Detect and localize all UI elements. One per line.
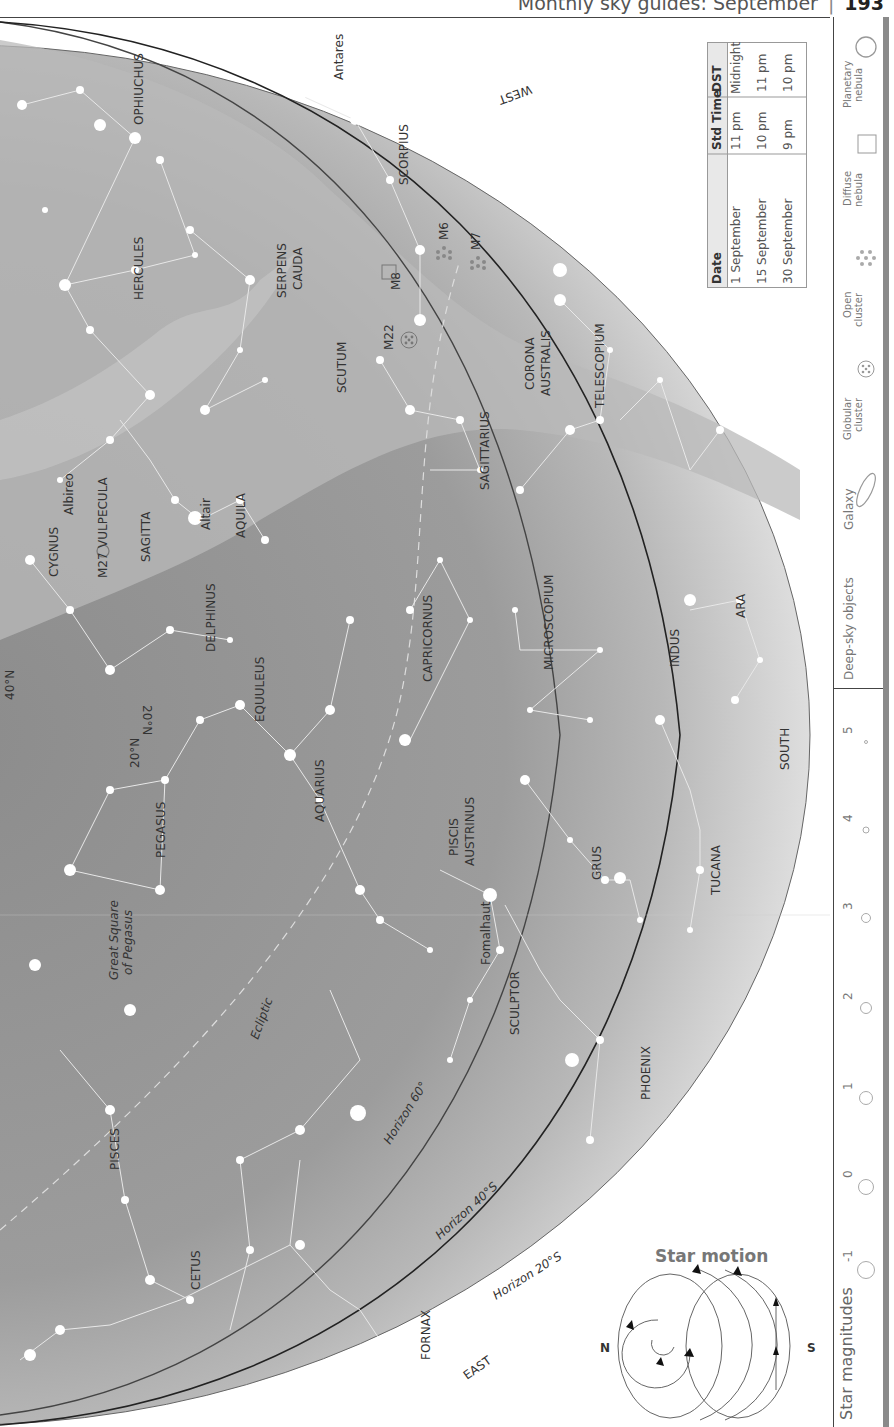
label-cauda: CAUDA (291, 247, 305, 290)
label-aquila: AQUILA (234, 492, 248, 538)
table-header-date: Date (710, 252, 724, 284)
legend-mag-1: 1 (842, 1082, 855, 1090)
diffuse-nebula-legend-icon (858, 135, 876, 153)
label-20n-b: 20°N (128, 738, 142, 768)
legend-mag-minus1: -1 (842, 1250, 855, 1262)
legend-mag-4: 4 (842, 814, 855, 822)
label-cygnus: CYGNUS (47, 527, 61, 577)
label-pisces: PISCES (108, 1128, 122, 1170)
label-altair: Altair (199, 498, 213, 530)
page-title: Monthly sky guides: September (518, 0, 818, 14)
label-indus: INDUS (668, 629, 682, 667)
table-header-dst: DST (710, 65, 724, 92)
legend-open-2: cluster (853, 293, 864, 327)
label-m22: M22 (382, 324, 396, 350)
label-ara: ARA (734, 593, 748, 618)
legend-galaxy: Galaxy (843, 488, 856, 530)
magnitude-5-icon (865, 741, 868, 744)
magnitude-minus1-icon (858, 1262, 875, 1279)
label-corona: CORONA (523, 336, 537, 390)
label-aquarius: AQUARIUS (313, 759, 327, 822)
legend-diffuse-1: Diffuse (842, 171, 853, 206)
sky-map: OPHIUCHUS HERCULES SERPENS CAUDA SCORPIU… (0, 18, 830, 1427)
planetary-nebula-legend-icon (856, 37, 876, 57)
star-motion-title: Star motion (655, 1246, 768, 1266)
legend-planetary-2: nebula (853, 68, 864, 102)
label-40n: 40°N (3, 670, 17, 700)
legend-magnitudes-title: Star magnitudes (840, 1287, 853, 1420)
label-ophiuchus: OPHIUCHUS (132, 53, 146, 125)
star-motion-diagram (618, 1270, 790, 1420)
label-20n-a: 20°N (140, 705, 154, 735)
label-scorpius: SCORPIUS (397, 124, 411, 185)
label-microscopium: MICROSCOPIUM (542, 575, 556, 670)
label-sculptor: SCULPTOR (508, 971, 522, 1035)
globular-cluster-legend-icon (858, 361, 874, 377)
legend-mag-0: 0 (842, 1170, 855, 1178)
legend-diffuse-2: nebula (853, 173, 864, 207)
legend-planetary-1: Planetary (842, 60, 853, 108)
label-piscis: PISCIS (447, 818, 461, 856)
label-pegasus: PEGASUS (154, 802, 168, 858)
label-fomalhaut: Fomalhaut (479, 901, 493, 965)
label-fornax: FORNAX (419, 1310, 433, 1360)
table-cell-dst-2: 11 pm (755, 54, 769, 92)
label-tucana: TUCANA (709, 844, 723, 896)
table-header-std-time: Std Time (710, 90, 724, 150)
label-m27: M27 (96, 552, 110, 578)
label-sagittarius: SAGITTARIUS (478, 411, 492, 490)
table-cell-date-2: 15 September (755, 199, 769, 284)
table-cell-std-3: 9 pm (781, 119, 795, 150)
label-hercules: HERCULES (132, 237, 146, 300)
label-sagitta: SAGITTA (139, 511, 153, 562)
table-cell-date-3: 30 September (781, 199, 795, 284)
table-cell-dst-3: 10 pm (781, 54, 795, 92)
observation-time-table: Date Std Time DST 1 September 11 pm Midn… (707, 42, 807, 288)
label-m8: M8 (389, 272, 403, 290)
open-cluster-legend-icon (856, 250, 876, 266)
label-great-square-2: of Pegasus (121, 910, 135, 975)
table-cell-std-1: 11 pm (729, 112, 743, 150)
star-motion-north: N (600, 1341, 610, 1355)
label-west: WEST (496, 82, 534, 107)
label-m6: M6 (437, 222, 451, 240)
legend-open-1: Open (842, 291, 853, 318)
legend-divider (833, 688, 883, 689)
table-cell-dst-1: Midnight (729, 42, 743, 94)
magnitude-2-icon (861, 1003, 872, 1014)
label-albireo: Albireo (62, 473, 76, 515)
legend-globular-1: Globular (842, 398, 853, 440)
label-equuleus: EQUULEUS (253, 657, 267, 722)
label-scutum: SCUTUM (335, 342, 349, 393)
label-australis: AUSTRALIS (539, 330, 553, 396)
legend-mag-5: 5 (842, 726, 855, 734)
legend-deep-sky-title: Deep-sky objects (843, 577, 856, 680)
label-great-square-1: Great Square (107, 900, 121, 980)
label-east: EAST (461, 1353, 495, 1382)
label-vulpecula: VULPECULA (96, 476, 110, 548)
star-motion-arrows (626, 1264, 779, 1366)
magnitude-4-icon (863, 827, 869, 833)
header-separator: | (828, 0, 834, 14)
label-capricornus: CAPRICORNUS (421, 595, 435, 682)
label-m7: M7 (469, 232, 483, 250)
sky-chart-svg: OPHIUCHUS HERCULES SERPENS CAUDA SCORPIU… (0, 18, 830, 1427)
galaxy-legend-icon (853, 471, 879, 509)
legend-mag-3: 3 (842, 902, 855, 910)
page-header: Monthly sky guides: September|193 (518, 0, 884, 14)
label-south: SOUTH (778, 728, 792, 770)
label-delphinus: DELPHINUS (204, 583, 218, 652)
magnitude-0-icon (859, 1180, 874, 1195)
star-motion-south: S (807, 1341, 816, 1355)
label-austrinus: AUSTRINUS (463, 797, 477, 866)
magnitude-1-icon (860, 1092, 873, 1105)
magnitude-3-icon (862, 914, 871, 923)
label-telescopium: TELESCOPIUM (593, 323, 607, 409)
legend-mag-2: 2 (842, 992, 855, 1000)
legend-globular-2: cluster (853, 398, 864, 432)
label-phoenix: PHOENIX (639, 1046, 653, 1100)
table-cell-std-2: 10 pm (755, 112, 769, 150)
label-cetus: CETUS (189, 1250, 203, 1290)
label-grus: GRUS (590, 846, 604, 880)
label-serpens: SERPENS (275, 243, 289, 298)
